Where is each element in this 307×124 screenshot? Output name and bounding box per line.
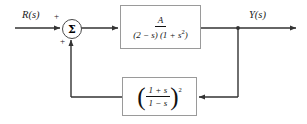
forward-fraction: A (2 − s)(1 + s2) xyxy=(130,15,190,40)
feedback-exponent: 2 xyxy=(178,86,181,93)
feedback-open-paren: ( xyxy=(137,87,145,107)
forward-numerator: A xyxy=(155,15,167,27)
sigma-symbol: Σ xyxy=(68,23,76,36)
forward-denominator-close: ) xyxy=(185,30,188,40)
block-diagram: R(s) Y(s) Σ + + A (2 − s)(1 + s2) ( 1 + … xyxy=(0,0,307,124)
forward-denominator-factor-1: (2 − s) xyxy=(133,30,158,40)
forward-transfer-function-block: A (2 − s)(1 + s2) xyxy=(120,5,201,49)
input-label: R(s) xyxy=(22,10,40,21)
forward-denominator-factor-2: (1 + s xyxy=(160,30,182,40)
feedback-close-paren: ) xyxy=(170,87,178,107)
feedback-expression: ( 1 + s 1 − s ) 2 xyxy=(137,85,181,108)
summing-junction: Σ xyxy=(62,19,82,39)
feedback-transfer-function-block: ( 1 + s 1 − s ) 2 xyxy=(122,77,197,116)
feedback-numerator: 1 + s xyxy=(146,85,171,97)
sum-sign-feedback: + xyxy=(60,37,65,46)
feedback-denominator: 1 − s xyxy=(146,97,171,108)
sum-sign-reference: + xyxy=(54,12,59,21)
output-label: Y(s) xyxy=(249,10,266,21)
forward-denominator: (2 − s)(1 + s2) xyxy=(130,27,190,40)
feedback-fraction: 1 + s 1 − s xyxy=(146,85,171,108)
